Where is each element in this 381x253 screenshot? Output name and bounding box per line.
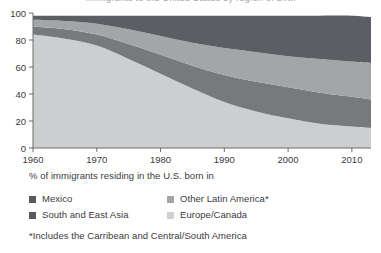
caption-text: % of immigrants residing in the U.S. bor… (29, 170, 214, 181)
x-tick-label: 2000 (278, 154, 299, 165)
chart-area: 020406080100 196019701980199020002010 (0, 6, 381, 166)
y-tick-label: 60 (15, 62, 26, 73)
x-axis-ticks: 196019701980199020002010 (22, 148, 362, 165)
y-tick-label: 100 (10, 8, 26, 19)
legend-label-europe-canada: Europe/Canada (180, 210, 247, 220)
legend-swatch-europe-canada (167, 212, 174, 219)
legend-swatch-mexico (29, 196, 36, 203)
legend-label-south-and-east-asia: South and East Asia (42, 210, 129, 220)
legend-label-other-latin-america: Other Latin America* (180, 194, 269, 204)
y-tick-label: 20 (15, 116, 26, 127)
chart-caption-block: % of immigrants residing in the U.S. bor… (0, 168, 381, 253)
x-tick-label: 1960 (22, 154, 43, 165)
legend-item-other-latin-america: Other Latin America* (167, 194, 357, 204)
area-series-group (33, 16, 371, 148)
clipped-title-strip: Immigrants to the United States by regio… (0, 0, 381, 5)
x-tick-label: 1990 (214, 154, 235, 165)
footnote-text: *Includes the Carribean and Central/Sout… (29, 230, 247, 241)
legend-item-europe-canada: Europe/Canada (167, 210, 357, 220)
y-tick-label: 80 (15, 35, 26, 46)
figure-title: Immigrants to the United States by regio… (0, 0, 381, 3)
legend-row: Mexico Other Latin America* (29, 191, 359, 207)
legend: Mexico Other Latin America* South and Ea… (29, 191, 359, 223)
stacked-area-chart: 020406080100 196019701980199020002010 (0, 6, 381, 166)
x-tick-label: 1970 (86, 154, 107, 165)
y-tick-label: 40 (15, 89, 26, 100)
legend-label-mexico: Mexico (42, 194, 72, 204)
legend-row: South and East Asia Europe/Canada (29, 207, 359, 223)
legend-item-mexico: Mexico (29, 194, 167, 204)
legend-swatch-south-and-east-asia (29, 212, 36, 219)
legend-item-south-and-east-asia: South and East Asia (29, 210, 167, 220)
figure-container: Immigrants to the United States by regio… (0, 0, 381, 253)
y-tick-label: 0 (21, 143, 26, 154)
y-axis-ticks: 020406080100 (10, 8, 33, 154)
x-tick-label: 2010 (341, 154, 362, 165)
x-tick-label: 1980 (150, 154, 171, 165)
legend-swatch-other-latin-america (167, 196, 174, 203)
